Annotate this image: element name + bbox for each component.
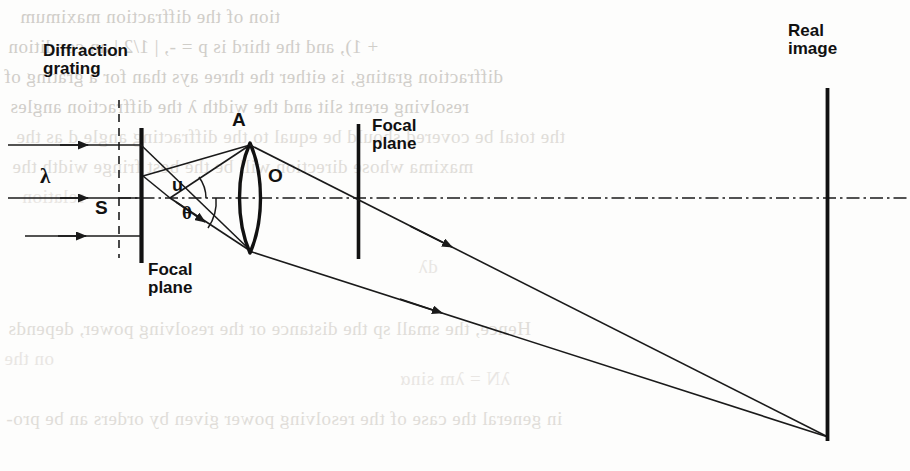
label-angle-u: u (172, 176, 183, 195)
ray-source-upper-branch (143, 176, 170, 198)
ray-s-to-lens-top (143, 145, 250, 176)
label-source-s: S (95, 198, 108, 218)
label-focal-plane-right: Focal plane (372, 117, 416, 153)
outgoing-ray-upper (250, 145, 828, 437)
label-angle-theta: θ (182, 203, 192, 222)
label-point-o: O (268, 166, 283, 186)
label-focal-plane-left: Focal plane (148, 261, 192, 297)
outgoing-ray-lower (252, 252, 828, 437)
ray-diagram (0, 0, 910, 471)
angle-arc-u (199, 177, 206, 198)
figure-page: tion of the diffraction maximum + 1), an… (0, 0, 910, 471)
label-wavelength-lambda: λ (40, 166, 50, 187)
label-diffraction-grating: Diffraction grating (43, 42, 128, 78)
label-real-image: Real image (788, 22, 837, 58)
label-point-a: A (232, 110, 246, 130)
